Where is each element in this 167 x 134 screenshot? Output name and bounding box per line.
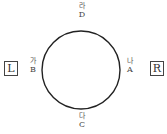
point-bottom-letter: C [74,121,90,129]
point-left-label: 가 B [27,58,39,74]
point-top-letter: D [74,11,90,19]
side-label-right: R [150,61,164,76]
point-right-letter: A [124,66,136,74]
side-label-left: L [4,61,18,76]
point-left-korean: 가 [27,58,39,65]
point-bottom-korean: 다 [74,113,90,120]
point-right-korean: 나 [124,58,136,65]
circle-outline [42,31,120,109]
point-top-korean: 라 [74,3,90,10]
point-left-letter: B [27,66,39,74]
point-bottom-label: 다 C [74,113,90,129]
point-top-label: 라 D [74,3,90,19]
point-right-label: 나 A [124,58,136,74]
